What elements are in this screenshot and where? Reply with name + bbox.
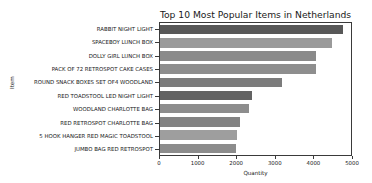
bar bbox=[160, 38, 332, 47]
y-tick-label: DOLLY GIRL LUNCH BOX bbox=[89, 53, 153, 59]
y-tick-label: PACK OF 72 RETROSPOT CAKE CASES bbox=[52, 66, 153, 72]
x-tick-mark bbox=[352, 156, 353, 159]
bar-row bbox=[160, 49, 351, 62]
x-tick-mark bbox=[275, 156, 276, 159]
y-tick-mark bbox=[155, 82, 159, 83]
x-tick-mark bbox=[198, 156, 199, 159]
y-tick-label: 5 HOOK HANGER RED MAGIC TOADSTOOL bbox=[39, 133, 153, 139]
x-tick-label: 3000 bbox=[268, 160, 282, 166]
bar bbox=[160, 25, 343, 34]
chart-figure: Top 10 Most Popular Items in Netherlands… bbox=[0, 0, 372, 183]
x-tick-label: 5000 bbox=[345, 160, 359, 166]
bar bbox=[160, 117, 240, 126]
bar-row bbox=[160, 36, 351, 49]
bar-row bbox=[160, 129, 351, 142]
bar-row bbox=[160, 23, 351, 36]
chart-title: Top 10 Most Popular Items in Netherlands bbox=[159, 9, 352, 20]
y-tick-mark bbox=[155, 149, 159, 150]
bar bbox=[160, 51, 316, 60]
y-tick-label: WOODLAND CHARLOTTE BAG bbox=[73, 106, 153, 112]
bar-row bbox=[160, 89, 351, 102]
y-tick-label: RABBIT NIGHT LIGHT bbox=[97, 26, 153, 32]
x-axis-label: Quantity bbox=[159, 170, 352, 176]
x-tick-label: 4000 bbox=[307, 160, 321, 166]
y-tick-label: ROUND SNACK BOXES SET OF4 WOODLAND bbox=[34, 79, 153, 85]
top-cutoff-text bbox=[4, 0, 124, 8]
y-axis-label: Item bbox=[9, 76, 15, 89]
x-tick-mark bbox=[159, 156, 160, 159]
y-tick-label: SPACEBOY LUNCH BOX bbox=[92, 39, 153, 45]
x-tick-mark bbox=[313, 156, 314, 159]
y-tick-label: RED RETROSPOT CHARLOTTE BAG bbox=[60, 120, 153, 126]
y-tick-mark bbox=[155, 56, 159, 57]
bar-row bbox=[160, 142, 351, 155]
y-tick-mark bbox=[155, 96, 159, 97]
x-tick-mark bbox=[236, 156, 237, 159]
x-tick-label: 0 bbox=[157, 160, 160, 166]
y-tick-label: JUMBO BAG RED RETROSPOT bbox=[74, 146, 153, 152]
bar-series bbox=[160, 23, 351, 155]
bar-row bbox=[160, 102, 351, 115]
bar-row bbox=[160, 76, 351, 89]
bar bbox=[160, 78, 282, 87]
plot-area bbox=[159, 22, 352, 156]
y-tick-mark bbox=[155, 136, 159, 137]
y-tick-label: RED TOADSTOOL LED NIGHT LIGHT bbox=[58, 93, 153, 99]
bar bbox=[160, 91, 252, 100]
y-tick-mark bbox=[155, 42, 159, 43]
bar bbox=[160, 130, 237, 139]
y-tick-mark bbox=[155, 123, 159, 124]
bar-row bbox=[160, 115, 351, 128]
bar bbox=[160, 104, 249, 113]
y-tick-mark bbox=[155, 29, 159, 30]
x-tick-label: 2000 bbox=[229, 160, 243, 166]
bar-row bbox=[160, 63, 351, 76]
y-tick-mark bbox=[155, 69, 159, 70]
x-tick-label: 1000 bbox=[191, 160, 205, 166]
y-tick-mark bbox=[155, 109, 159, 110]
bar bbox=[160, 64, 316, 73]
bar bbox=[160, 144, 236, 153]
